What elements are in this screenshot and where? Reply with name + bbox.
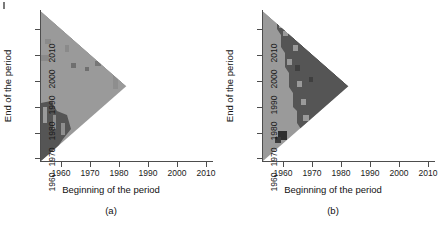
panel-b-x-tick-2010 [428,162,429,167]
panel-b-x-tick-2000 [399,162,400,167]
panel-b-x-tick-1960 [283,162,284,167]
panel-a-x-label-1960: 1960 [52,168,71,178]
panel-a-x-label-1990: 1990 [139,168,158,178]
panel-b-y-tick-1980 [257,107,262,108]
panel-b-y-tick-1960 [257,158,262,159]
panel-a-y-tick-1970 [35,133,40,134]
panel-a-caption: (a) [0,205,222,216]
panel-b-y-label-1980: 1980 [269,121,279,140]
panel-b-blank-lower-triangle [263,11,434,161]
panel-b-y-tick-2000 [257,55,262,56]
panel-a-x-tick-1980 [119,162,120,167]
figure-two-panel-heatmaps: 1960 1970 1980 1990 2000 2010 1960 1970 … [0,0,444,232]
panel-a-x-tick-2010 [206,162,207,167]
panel-a-y-tick-2000 [35,55,40,56]
panel-b-y-label-1970: 1970 [269,147,279,166]
panel-b-y-tick-2010 [257,29,262,30]
panel-a-y-label-2000: 2000 [47,69,57,88]
panel-a-y-label-1970: 1970 [47,147,57,166]
panel-b: 1960 1970 1980 1990 2000 2010 1960 1970 … [222,0,444,232]
panel-b-y-axis-title: End of the period [224,50,235,122]
panel-a-y-label-2010: 2010 [47,43,57,62]
panel-b-y-tick-1990 [257,81,262,82]
panel-b-y-axis-line [262,10,263,162]
panel-b-y-tick-1970 [257,133,262,134]
panel-a-y-label-1990: 1990 [47,95,57,114]
panel-a-x-axis-line [40,161,213,162]
panel-a-x-label-1980: 1980 [110,168,129,178]
panel-a-x-tick-1960 [61,162,62,167]
panel-b-x-label-2000: 2000 [390,168,409,178]
panel-b-x-axis-title: Beginning of the period [222,184,444,195]
panel-b-x-label-2010: 2010 [419,168,438,178]
panel-a-y-axis-line [40,10,41,162]
panel-a-x-label-1970: 1970 [81,168,100,178]
panel-b-plot-area [263,11,434,161]
panel-b-x-tick-1980 [341,162,342,167]
panel-a-x-axis-title: Beginning of the period [0,184,222,195]
panel-a-y-tick-2010 [35,29,40,30]
panel-a-y-tick-1980 [35,107,40,108]
panel-a-plot-area [41,11,212,161]
panel-a-y-label-1980: 1980 [47,121,57,140]
panel-b-x-tick-1970 [312,162,313,167]
panel-a-y-axis-title: End of the period [2,50,13,122]
panel-a-blank-lower-triangle [41,11,212,161]
panel-b-x-label-1990: 1990 [361,168,380,178]
panel-b-y-label-1990: 1990 [269,95,279,114]
panel-b-x-label-1980: 1980 [332,168,351,178]
panel-a-y-tick-1960 [35,158,40,159]
panel-b-x-label-1960: 1960 [274,168,293,178]
panel-b-y-label-2000: 2000 [269,69,279,88]
panel-b-x-label-1970: 1970 [303,168,322,178]
panel-a-x-tick-1990 [148,162,149,167]
panel-a-x-label-2010: 2010 [197,168,216,178]
panel-a-x-tick-2000 [177,162,178,167]
panel-b-y-label-2010: 2010 [269,43,279,62]
panel-a-x-label-2000: 2000 [168,168,187,178]
panel-b-x-tick-1990 [370,162,371,167]
panel-a-x-tick-1970 [90,162,91,167]
panel-a: 1960 1970 1980 1990 2000 2010 1960 1970 … [0,0,222,232]
panel-b-x-axis-line [262,161,435,162]
panel-b-caption: (b) [222,205,444,216]
panel-a-y-tick-1990 [35,81,40,82]
